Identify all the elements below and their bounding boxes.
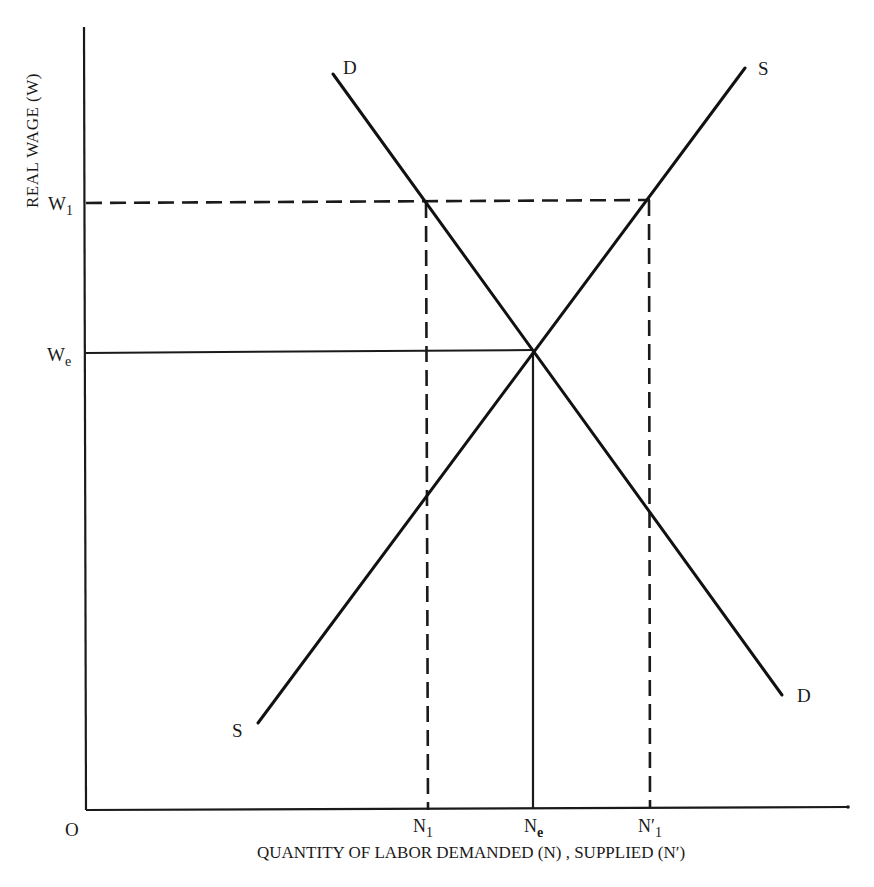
y-axis-label: REAL WAGE (W) [23,73,42,208]
supply-bottom-label: S [232,720,243,741]
demand-top-label: D [343,57,357,78]
n1-prime-label: N′1 [638,816,662,840]
we-label: We [47,344,71,369]
w1-dashed-line [86,200,650,203]
n1-dashed-line [426,202,428,810]
origin-label: O [65,819,79,840]
ne-label: Ne [524,816,543,840]
we-solid-line [86,350,533,353]
n1-prime-dashed-line [649,200,650,808]
n1-label: N1 [413,816,433,840]
w1-label: W1 [48,193,73,218]
x-axis [86,807,848,810]
demand-bottom-label: D [797,685,811,706]
y-axis [84,27,86,810]
demand-curve [333,74,782,695]
x-axis-end-dot [846,805,850,809]
labor-market-diagram: REAL WAGE (W) W1 We O N1 Ne N′1 QUANTITY… [0,0,874,887]
supply-curve [258,68,745,723]
supply-top-label: S [758,58,769,79]
x-axis-label: QUANTITY OF LABOR DEMANDED (N) , SUPPLIE… [257,843,685,862]
